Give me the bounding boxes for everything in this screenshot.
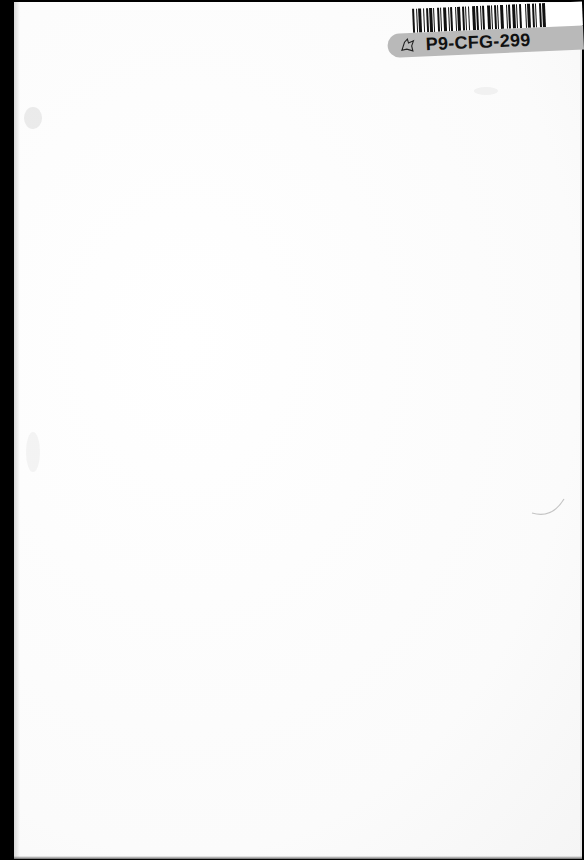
blank-page — [14, 2, 582, 859]
paper-smudge — [26, 432, 40, 472]
barcode-sticker: P9-CFG-299 — [386, 0, 584, 66]
page-bottom-edge — [14, 856, 582, 859]
call-number: P9-CFG-299 — [425, 29, 531, 55]
gutter-shadow — [14, 2, 20, 859]
page-right-edge — [580, 2, 582, 859]
library-mark-icon — [399, 37, 416, 54]
paper-smudge — [24, 107, 42, 129]
paper-smudge — [474, 87, 498, 95]
page-crease-mark — [530, 495, 570, 517]
